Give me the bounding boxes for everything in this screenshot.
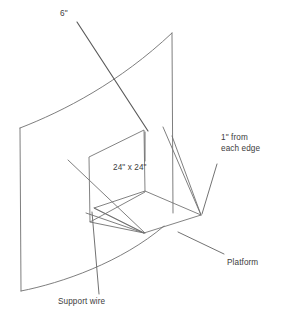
panel-left-vertical [89,157,90,222]
sheet-left-edge [20,128,21,291]
six-inch-leader [77,22,148,131]
edge-offset-label: 1" fromeach edge [221,133,260,154]
platform-outline [94,191,201,233]
platform-parallelogram [94,191,201,233]
platform-label: Platform [227,258,258,269]
six-inch-label: 6" [60,9,68,20]
sheet-top-curve [20,33,172,128]
panel-dimension-label: 24" x 24" [113,163,147,174]
sheet-right-edge [172,33,173,213]
edge-offset-line-2: each edge [221,144,260,153]
wire-platform-lower-edge [94,208,144,233]
wire-upper-right-a [163,127,201,215]
support-wire-leader [92,212,99,294]
edge-offset-line-1: 1" from [221,133,248,142]
callout-leader-group [77,22,224,294]
curved-backing-sheet [20,33,173,291]
wire-upper-right-b [172,136,201,215]
panel-top-edge [89,130,144,157]
edge-offset-leader [202,164,217,214]
sheet-bottom-curve [21,226,164,291]
support-wire-label: Support wire [58,297,105,308]
diagram-canvas: 6" 24" x 24" 1" fromeach edge Platform S… [0,0,287,325]
support-wire-group [68,127,201,233]
vertical-panel-24x24 [89,130,145,222]
platform-leader [178,232,224,254]
